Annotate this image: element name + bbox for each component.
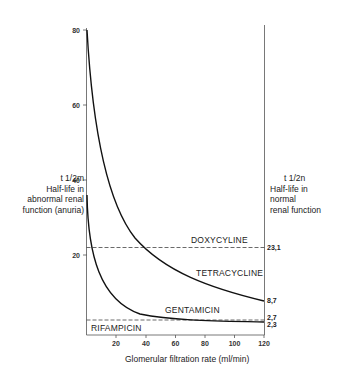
tetracycline-label: TETRACYCLINE <box>196 268 263 278</box>
right-axis-title-line: renal function <box>270 205 342 216</box>
doxycyline-end-value: 23,1 <box>267 244 281 252</box>
y-tick-label: 60 <box>72 102 80 109</box>
rifampicin-label: RIFAMPICIN <box>91 323 142 333</box>
gentamicin-end-value: 2,3 <box>267 321 277 329</box>
x-axis-title: Glomerular filtration rate (ml/min) <box>125 354 249 364</box>
x-tick-label: 100 <box>229 340 241 347</box>
right-axis-title-line: Half-life in <box>270 184 342 195</box>
y-tick-label: 20 <box>72 252 80 259</box>
x-tick-label: 120 <box>258 340 270 347</box>
right-axis-title-line: t 1/2n <box>270 173 342 184</box>
doxycyline-label: DOXYCYLINE <box>191 235 248 245</box>
y-tick-label: 80 <box>72 27 80 34</box>
x-ticks <box>116 335 264 338</box>
gentamicin-curve <box>87 195 264 322</box>
left-axis-title-line: t 1/2m <box>2 173 84 184</box>
tetracycline-end-value: 8,7 <box>267 297 277 305</box>
gentamicin-label: GENTAMICIN <box>165 305 220 315</box>
left-axis-title-line: Half-life in <box>2 184 84 195</box>
x-tick-label: 20 <box>112 340 120 347</box>
left-axis-title-line: abnormal renal <box>2 194 84 205</box>
right-axis-title-line: normal <box>270 194 342 205</box>
left-axis-title-line: function (anuria) <box>2 205 84 216</box>
left-axis-title: t 1/2m Half-life in abnormal renal funct… <box>2 173 84 215</box>
x-tick-label: 40 <box>142 340 150 347</box>
right-axis-title: t 1/2n Half-life in normal renal functio… <box>270 173 342 215</box>
x-tick-label: 60 <box>172 340 180 347</box>
tetracycline-curve <box>87 30 264 301</box>
x-tick-label: 80 <box>201 340 209 347</box>
